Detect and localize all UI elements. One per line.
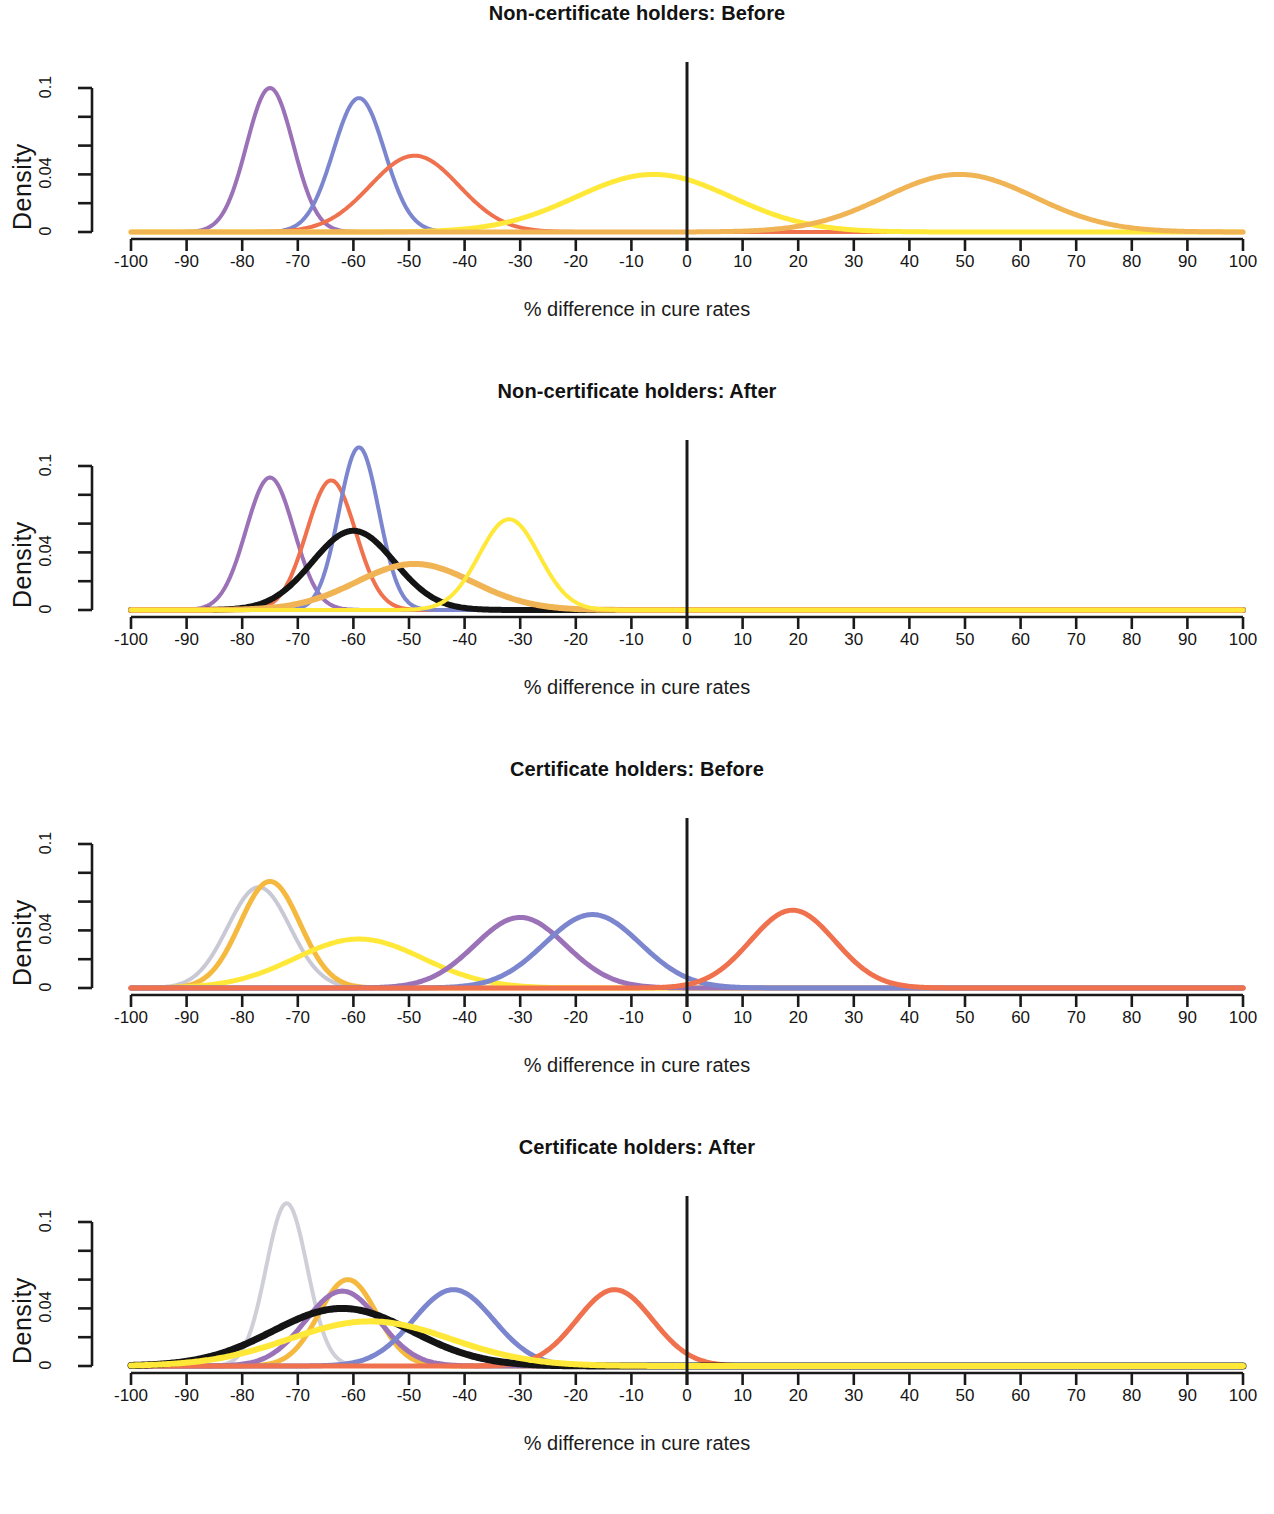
plot-area	[0, 378, 1274, 678]
x-axis-title: % difference in cure rates	[0, 298, 1274, 321]
plot-area	[0, 756, 1274, 1056]
plot-area	[0, 1134, 1274, 1434]
x-axis-title: % difference in cure rates	[0, 676, 1274, 699]
panel-1: Non-certificate holders: BeforeDensity00…	[0, 0, 1274, 378]
panel-2: Non-certificate holders: AfterDensity00.…	[0, 378, 1274, 756]
x-axis-title: % difference in cure rates	[0, 1432, 1274, 1455]
x-axis-title: % difference in cure rates	[0, 1054, 1274, 1077]
density-figure: Non-certificate holders: BeforeDensity00…	[0, 0, 1274, 1512]
panel-3: Certificate holders: BeforeDensity00.040…	[0, 756, 1274, 1134]
plot-area	[0, 0, 1274, 300]
panel-4: Certificate holders: AfterDensity00.040.…	[0, 1134, 1274, 1512]
